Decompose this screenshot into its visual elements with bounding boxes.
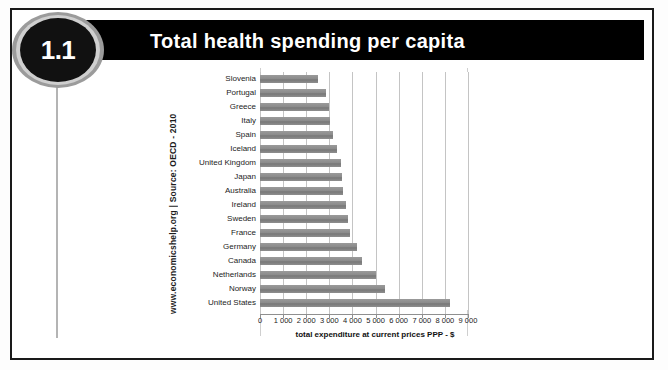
category-label: United Kingdom xyxy=(178,156,260,170)
bar-row xyxy=(260,240,468,254)
bar-row xyxy=(260,142,468,156)
category-label: Italy xyxy=(178,114,260,128)
x-tick-label: 2 000 xyxy=(297,316,316,325)
category-label: Canada xyxy=(178,254,260,268)
category-label: Ireland xyxy=(178,198,260,212)
bar-row xyxy=(260,226,468,240)
x-tick-label: 0 xyxy=(258,316,262,325)
category-label: United States xyxy=(178,296,260,310)
bar xyxy=(260,75,318,83)
category-label: Norway xyxy=(178,282,260,296)
category-label: Portugal xyxy=(178,86,260,100)
x-tick-label: 5 000 xyxy=(366,316,385,325)
poster-page: Total health spending per capita 1.1 www… xyxy=(0,0,668,370)
x-tick-label: 7 000 xyxy=(412,316,431,325)
bar xyxy=(260,201,346,209)
category-label: Australia xyxy=(178,184,260,198)
category-label: Germany xyxy=(178,240,260,254)
bar-row xyxy=(260,282,468,296)
badge-stem xyxy=(56,86,58,338)
bar-row xyxy=(260,72,468,86)
bar-row xyxy=(260,212,468,226)
source-note: www.economicshelp.org | Source: OECD - 2… xyxy=(162,74,178,314)
bar xyxy=(260,89,326,97)
bar xyxy=(260,257,362,265)
bar xyxy=(260,271,376,279)
x-axis-tick-labels: 01 0002 0003 0004 0005 0006 0007 0008 00… xyxy=(260,316,490,328)
x-tick-label: 6 000 xyxy=(389,316,408,325)
category-label: Slovenia xyxy=(178,72,260,86)
category-label: Greece xyxy=(178,100,260,114)
category-label: Japan xyxy=(178,170,260,184)
grid-line xyxy=(468,72,469,314)
category-label: Sweden xyxy=(178,212,260,226)
bar xyxy=(260,285,385,293)
bar-row xyxy=(260,198,468,212)
bar-row xyxy=(260,254,468,268)
category-axis-labels: SloveniaPortugalGreeceItalySpainIcelandU… xyxy=(178,72,260,310)
x-tick-label: 9 000 xyxy=(459,316,478,325)
page-title: Total health spending per capita xyxy=(150,27,570,55)
bar xyxy=(260,243,357,251)
bar-row xyxy=(260,156,468,170)
category-label: Iceland xyxy=(178,142,260,156)
bar xyxy=(260,103,329,111)
bar xyxy=(260,117,330,125)
plot-area xyxy=(260,72,468,310)
bar-row xyxy=(260,296,468,310)
bar-row xyxy=(260,170,468,184)
bar xyxy=(260,215,348,223)
x-axis-title: total expenditure at current prices PPP … xyxy=(260,330,490,339)
category-label: Netherlands xyxy=(178,268,260,282)
bar-row xyxy=(260,184,468,198)
bar-chart: www.economicshelp.org | Source: OECD - 2… xyxy=(160,68,560,338)
category-label: Spain xyxy=(178,128,260,142)
x-tick-label: 4 000 xyxy=(343,316,362,325)
bar xyxy=(260,187,343,195)
bar-row xyxy=(260,114,468,128)
bar xyxy=(260,173,342,181)
bar xyxy=(260,131,333,139)
bar-row xyxy=(260,100,468,114)
category-label: France xyxy=(178,226,260,240)
bar-row xyxy=(260,268,468,282)
bar xyxy=(260,145,337,153)
badge-number: 1.1 xyxy=(20,18,96,82)
bar xyxy=(260,159,341,167)
x-tick-label: 3 000 xyxy=(320,316,339,325)
x-tick-label: 8 000 xyxy=(435,316,454,325)
x-axis-line xyxy=(260,314,468,315)
bar-row xyxy=(260,86,468,100)
bar-row xyxy=(260,128,468,142)
bar xyxy=(260,299,450,307)
x-tick-label: 1 000 xyxy=(274,316,293,325)
bar xyxy=(260,229,350,237)
